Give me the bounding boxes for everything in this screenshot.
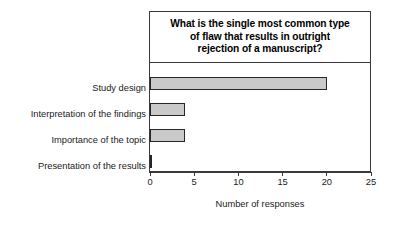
x-axis-title: Number of responses bbox=[149, 199, 371, 210]
x-axis-tick-label: 10 bbox=[223, 177, 253, 188]
y-axis-label-interpretation-of-the-findings: Interpretation of the findings bbox=[0, 109, 146, 120]
bar-chart: What is the single most common type of f… bbox=[0, 0, 399, 226]
x-axis-tick bbox=[194, 172, 195, 176]
bar-presentation-of-the-results bbox=[150, 155, 152, 168]
bars-layer bbox=[150, 63, 371, 172]
y-axis-label-presentation-of-the-results: Presentation of the results bbox=[0, 161, 146, 172]
x-axis-tick-label: 5 bbox=[179, 177, 209, 188]
x-axis-tick-label: 15 bbox=[268, 177, 298, 188]
x-axis-tick-label: 20 bbox=[312, 177, 342, 188]
x-axis-tick bbox=[371, 172, 372, 176]
bar-importance-of-the-topic bbox=[150, 129, 185, 142]
y-axis-label-importance-of-the-topic: Importance of the topic bbox=[0, 135, 146, 146]
y-axis-label-study-design: Study design bbox=[0, 83, 146, 94]
x-axis-tick bbox=[326, 172, 327, 176]
x-axis-line bbox=[149, 172, 372, 173]
x-axis-tick bbox=[282, 172, 283, 176]
bar-interpretation-of-the-findings bbox=[150, 103, 185, 116]
x-axis-tick bbox=[238, 172, 239, 176]
x-axis-tick bbox=[150, 172, 151, 176]
chart-title: What is the single most common type of f… bbox=[166, 18, 353, 56]
y-axis-labels: Study design Interpretation of the findi… bbox=[0, 0, 146, 226]
chart-title-box: What is the single most common type of f… bbox=[149, 11, 371, 62]
x-axis-tick-label: 25 bbox=[356, 177, 386, 188]
x-axis-tick-label: 0 bbox=[135, 177, 165, 188]
bar-study-design bbox=[150, 77, 327, 90]
